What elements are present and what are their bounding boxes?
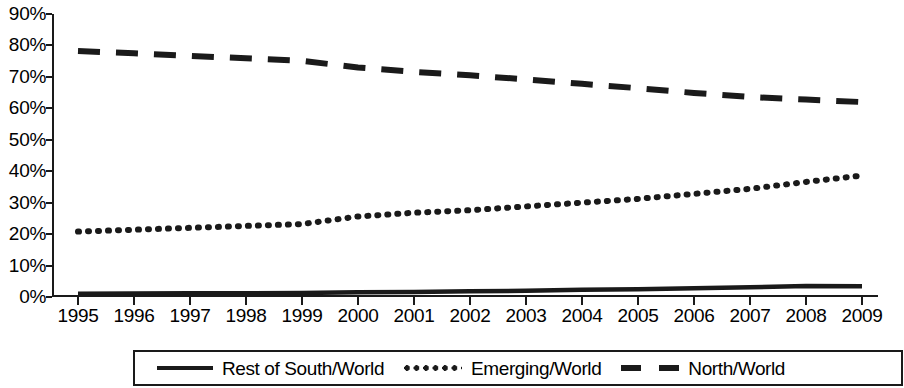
x-axis-tick [413,297,415,305]
y-tick-label: 30% [9,193,46,212]
series-line [78,286,862,294]
x-tick-label: 2007 [729,305,770,327]
series-line [78,176,862,232]
x-axis-tick [749,297,751,305]
x-tick-label: 1995 [57,305,98,327]
legend-item[interactable]: North/World [621,359,785,378]
y-tick-label: 90% [9,4,46,23]
x-tick-label: 1997 [169,305,210,327]
x-tick-label: 1996 [113,305,154,327]
x-axis: 1995199619971998199920002001200220032004… [52,305,878,335]
x-axis-tick [469,297,471,305]
y-axis-tick [46,296,52,298]
dotted-line-swatch-icon [404,361,462,375]
y-tick-label: 80% [9,35,46,54]
x-tick-label: 2008 [785,305,826,327]
y-axis-tick [46,202,52,204]
y-axis-tick [46,233,52,235]
y-axis-tick [46,265,52,267]
x-tick-label: 1998 [225,305,266,327]
x-tick-label: 1999 [281,305,322,327]
x-axis-tick [245,297,247,305]
x-axis-tick [357,297,359,305]
y-tick-label: 60% [9,98,46,117]
x-tick-label: 2002 [449,305,490,327]
solid-line-swatch-icon [157,361,213,375]
y-axis-tick [46,13,52,15]
chart-legend: Rest of South/WorldEmerging/WorldNorth/W… [133,350,903,386]
dashed-line-swatch-icon [621,361,679,375]
y-tick-label: 0% [19,287,46,306]
x-axis-tick [133,297,135,305]
y-axis: 90%80%70%60%50%40%30%20%10%0% [0,0,52,310]
x-axis-tick [693,297,695,305]
series-line [78,51,862,102]
y-tick-label: 40% [9,161,46,180]
legend-item[interactable]: Emerging/World [404,359,601,378]
y-tick-label: 20% [9,224,46,243]
x-tick-label: 2006 [673,305,714,327]
x-axis-tick [805,297,807,305]
x-axis-tick [301,297,303,305]
legend-item-label: North/World [688,359,785,378]
y-axis-tick [46,107,52,109]
legend-item-label: Rest of South/World [222,359,384,378]
y-axis-tick [46,44,52,46]
x-tick-label: 2000 [337,305,378,327]
plot-area [52,14,878,297]
y-tick-label: 10% [9,256,46,275]
y-axis-tick [46,76,52,78]
y-tick-label: 70% [9,67,46,86]
x-axis-tick [525,297,527,305]
x-axis-tick [861,297,863,305]
x-tick-label: 2003 [505,305,546,327]
x-axis-tick [77,297,79,305]
x-axis-tick [189,297,191,305]
x-axis-tick [581,297,583,305]
legend-item[interactable]: Rest of South/World [157,359,384,378]
x-tick-label: 2004 [561,305,602,327]
y-axis-tick [46,139,52,141]
x-tick-label: 2009 [841,305,882,327]
x-tick-label: 2001 [393,305,434,327]
series-plot [52,14,878,297]
chart-container: 90%80%70%60%50%40%30%20%10%0% 1995199619… [0,0,904,388]
y-tick-label: 50% [9,130,46,149]
x-tick-label: 2005 [617,305,658,327]
x-axis-tick [637,297,639,305]
y-axis-tick [46,170,52,172]
legend-item-label: Emerging/World [471,359,601,378]
